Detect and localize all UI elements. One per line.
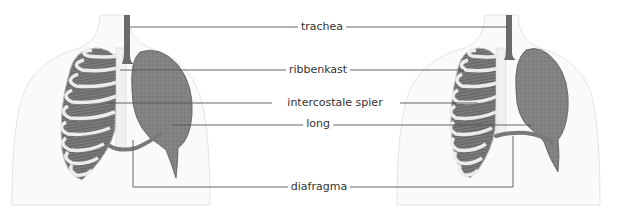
label-diafragma: diafragma — [288, 180, 350, 193]
right-figure — [397, 15, 600, 205]
label-long: long — [303, 117, 333, 130]
left-figure — [12, 15, 210, 205]
label-intercostale-spier: intercostale spier — [284, 96, 385, 109]
label-trachea: trachea — [298, 20, 346, 33]
label-ribbenkast: ribbenkast — [286, 63, 350, 76]
